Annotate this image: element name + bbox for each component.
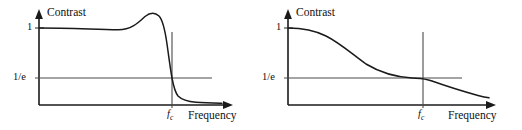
- left-ytick-label-one-over-e: 1/e: [13, 72, 26, 83]
- chart-left: [35, 9, 233, 109]
- chart-right: [284, 9, 496, 109]
- right-mtf-curve: [288, 28, 489, 98]
- right-x-axis-arrow-icon: [486, 101, 496, 109]
- right-xtick-label-fc: fc: [418, 109, 424, 122]
- left-y-axis-arrow-icon: [35, 9, 43, 19]
- figure-graphics: [0, 0, 522, 130]
- left-ytick-label-1: 1: [27, 22, 32, 33]
- right-ytick-label-one-over-e: 1/e: [262, 72, 275, 83]
- left-x-axis-arrow-icon: [223, 101, 233, 109]
- right-x-axis-title: Frequency: [448, 110, 497, 122]
- figure-canvas: Contrast 1 1/e fc Frequency Contrast 1 1…: [0, 0, 522, 130]
- left-x-axis-title: Frequency: [188, 110, 237, 122]
- right-ytick-label-1: 1: [276, 22, 281, 33]
- right-y-axis-arrow-icon: [284, 9, 292, 19]
- left-xtick-label-fc: fc: [167, 109, 173, 122]
- right-xtick-label-fc-subscript: c: [421, 113, 424, 122]
- left-y-axis-title: Contrast: [47, 7, 86, 19]
- right-y-axis-title: Contrast: [296, 7, 335, 19]
- left-xtick-label-fc-subscript: c: [170, 113, 173, 122]
- left-mtf-curve: [39, 13, 222, 103]
